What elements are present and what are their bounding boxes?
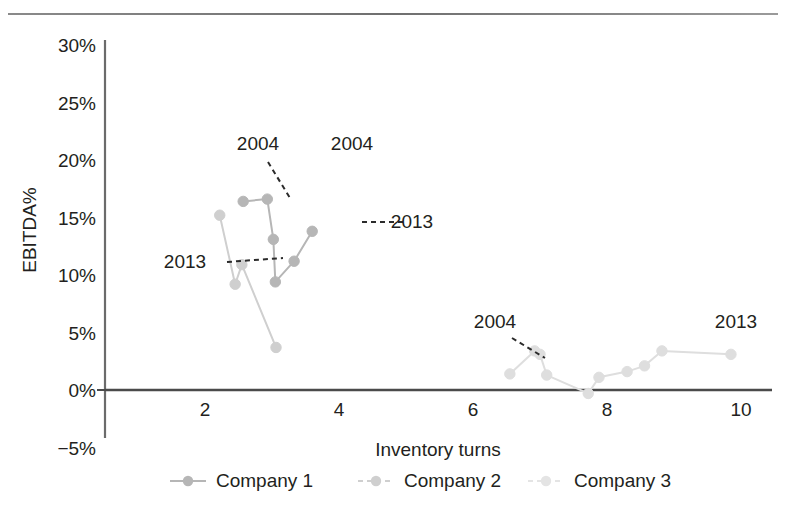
annot-2004-left: 2004 — [237, 133, 280, 154]
y-tick-label: −5% — [57, 438, 96, 459]
y-tick-label: 15% — [58, 208, 96, 229]
data-point-marker — [583, 388, 593, 398]
data-point-marker — [639, 361, 649, 371]
annot-2013-right: 2013 — [715, 311, 757, 332]
series-line — [220, 215, 276, 347]
legend-item-3[interactable]: Company 3 — [528, 470, 671, 491]
data-point-marker — [230, 279, 240, 289]
data-point-marker — [215, 210, 225, 220]
x-axis-title: Inventory turns — [375, 439, 501, 460]
annotation-leader-line — [268, 162, 290, 198]
x-tick-label: 8 — [602, 399, 613, 420]
data-point-marker — [238, 196, 248, 206]
y-tick-label: 30% — [58, 35, 96, 56]
x-axis-tick-labels: 246810 — [200, 399, 752, 420]
data-point-marker — [262, 194, 272, 204]
legend-item-label: Company 1 — [216, 470, 313, 491]
chart-legend: Company 1Company 2Company 3 — [170, 470, 671, 491]
y-tick-label: 25% — [58, 93, 96, 114]
data-series-group — [215, 194, 737, 399]
data-point-marker — [270, 277, 280, 287]
x-tick-label: 6 — [468, 399, 479, 420]
legend-item-1[interactable]: Company 1 — [170, 470, 313, 491]
annot-2004-right: 2004 — [474, 311, 517, 332]
data-point-marker — [542, 370, 552, 380]
y-tick-label: 5% — [69, 323, 97, 344]
data-point-marker — [307, 226, 317, 236]
data-point-marker — [622, 366, 632, 376]
series-1 — [238, 194, 317, 287]
legend-item-label: Company 2 — [404, 470, 501, 491]
y-tick-label: 20% — [58, 150, 96, 171]
x-tick-label: 2 — [200, 399, 211, 420]
legend-item-2[interactable]: Company 2 — [358, 470, 501, 491]
annot-2004-mid: 2004 — [331, 133, 374, 154]
data-point-marker — [289, 256, 299, 266]
legend-swatch-marker — [541, 476, 551, 486]
data-point-marker — [657, 346, 667, 356]
legend-swatch-marker — [371, 476, 381, 486]
data-point-marker — [726, 349, 736, 359]
legend-item-label: Company 3 — [574, 470, 671, 491]
data-point-marker — [268, 234, 278, 244]
chart-figure: 30%25%20%15%10%5%0%−5% 246810 2004200420… — [0, 0, 786, 518]
annot-2013-mid: 2013 — [391, 211, 433, 232]
y-axis-title: EBITDA% — [19, 187, 40, 273]
x-tick-label: 4 — [334, 399, 345, 420]
legend-swatch-marker — [183, 476, 193, 486]
y-axis-tick-labels: 30%25%20%15%10%5%0%−5% — [57, 35, 105, 459]
data-point-marker — [505, 369, 515, 379]
year-annotations-group: 200420042013201320042013 — [164, 133, 757, 358]
scatter-chart-canvas: 30%25%20%15%10%5%0%−5% 246810 2004200420… — [0, 0, 786, 518]
x-tick-label: 10 — [730, 399, 751, 420]
data-point-marker — [594, 372, 604, 382]
y-tick-label: 0% — [69, 380, 97, 401]
data-point-marker — [271, 342, 281, 352]
y-tick-label: 10% — [58, 265, 96, 286]
annot-2013-left: 2013 — [164, 251, 206, 272]
